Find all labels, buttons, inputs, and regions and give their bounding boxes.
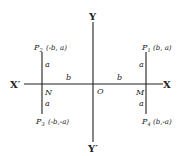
foot-n-label: N (44, 88, 53, 97)
p4-coords: (b,-a) (153, 118, 172, 126)
svg-text:P2: P2 (33, 43, 43, 53)
coordinate-diagram: Y Y′ X′ X O N M a a a a b b P2 (-b, a) P… (0, 0, 187, 156)
y-negative-label: Y′ (87, 143, 98, 154)
y-positive-label: Y (88, 11, 97, 22)
foot-m-label: M (135, 88, 145, 97)
a-lower-left-label: a (45, 99, 50, 108)
origin-label: O (97, 87, 104, 96)
point-p1: P1 (b, a) (141, 43, 172, 53)
a-lower-right-label: a (139, 99, 144, 108)
point-p3: P3 (-b,-a) (35, 117, 69, 127)
b-left-label: b (66, 73, 71, 82)
svg-text:P4: P4 (141, 117, 151, 127)
diagram-canvas: Y Y′ X′ X O N M a a a a b b P2 (-b, a) P… (0, 0, 187, 156)
p3-coords: (-b,-a) (48, 118, 69, 126)
a-upper-right-label: a (139, 60, 144, 69)
p1-coords: (b, a) (153, 44, 172, 52)
point-p2: P2 (-b, a) (33, 43, 67, 53)
a-upper-left-label: a (45, 60, 50, 69)
b-right-label: b (117, 73, 122, 82)
p2-coords: (-b, a) (46, 44, 67, 52)
point-p4: P4 (b,-a) (141, 117, 172, 127)
x-negative-label: X′ (10, 79, 21, 90)
x-positive-label: X (163, 79, 171, 90)
svg-text:P1: P1 (141, 43, 151, 53)
svg-text:P3: P3 (35, 117, 45, 127)
